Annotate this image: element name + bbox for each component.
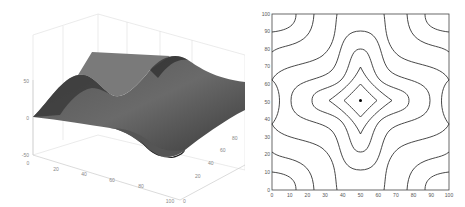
y-tick: 20 [195, 173, 201, 179]
x-tick: 10 [287, 192, 293, 198]
y-tick: 60 [264, 81, 270, 87]
center-point [359, 99, 362, 102]
y-tick: 10 [264, 169, 270, 175]
contour-plot: 0 10 20 30 40 50 60 70 80 90 100 0 10 20… [245, 0, 465, 207]
x-tick: 0 [27, 160, 30, 166]
x-tick-labels: 0 10 20 30 40 50 60 70 80 90 100 [271, 192, 454, 198]
x-tick: 100 [445, 192, 454, 198]
y-tick: 40 [208, 160, 214, 166]
y-tick: 70 [264, 63, 270, 69]
y-tick: 60 [220, 147, 226, 153]
z-tick: 50 [23, 78, 29, 84]
y-tick: 50 [264, 99, 270, 105]
x-tick: 40 [81, 171, 87, 177]
x-tick-labels: 0 20 40 60 80 100 [27, 160, 175, 204]
y-tick: 0 [183, 198, 186, 204]
x-tick: 100 [166, 198, 175, 204]
y-tick: 90 [264, 28, 270, 34]
z-tick-labels: 50 0 -50 [22, 78, 29, 158]
x-tick: 60 [109, 177, 115, 183]
contour-plot-svg: 0 10 20 30 40 50 60 70 80 90 100 0 10 20… [245, 0, 465, 207]
x-tick: 20 [53, 166, 59, 172]
x-tick: 40 [340, 192, 346, 198]
y-tick: 30 [264, 134, 270, 140]
surface-plot-svg: 50 0 -50 0 20 40 60 80 100 0 20 40 60 80 [0, 0, 245, 207]
y-tick: 80 [232, 135, 238, 141]
x-tick: 0 [271, 192, 274, 198]
y-tick-labels: 0 10 20 30 40 50 60 70 80 90 100 [262, 11, 271, 193]
x-tick: 20 [305, 192, 311, 198]
y-tick: 80 [264, 46, 270, 52]
x-tick: 80 [138, 183, 144, 189]
y-tick: 40 [264, 116, 270, 122]
z-tick: -50 [22, 152, 29, 158]
x-tick: 60 [375, 192, 381, 198]
x-tick: 90 [429, 192, 435, 198]
x-tick: 80 [411, 192, 417, 198]
y-tick: 100 [262, 11, 271, 17]
surface-plot: 50 0 -50 0 20 40 60 80 100 0 20 40 60 80 [0, 0, 245, 207]
surface [33, 52, 245, 158]
x-tick: 30 [322, 192, 328, 198]
z-tick: 0 [26, 115, 29, 121]
y-tick: 20 [264, 151, 270, 157]
x-tick: 50 [358, 192, 364, 198]
x-tick: 70 [393, 192, 399, 198]
